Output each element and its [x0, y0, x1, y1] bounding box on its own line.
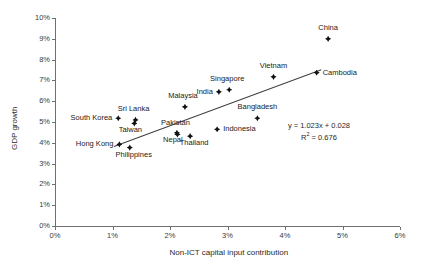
y-tick-mark: [52, 39, 55, 40]
x-tick-label: 5%: [329, 232, 357, 240]
data-point-label: China: [288, 24, 368, 33]
y-tick-label: 9%: [22, 35, 50, 43]
data-point-label: Pakistan: [135, 119, 215, 128]
data-point-label: India: [0, 88, 213, 97]
data-point-label: South Korea: [0, 114, 112, 123]
data-point-label: Cambodia: [323, 69, 357, 78]
data-point-label: Philippines: [94, 151, 174, 160]
x-tick-mark: [170, 227, 171, 230]
y-tick-mark: [52, 80, 55, 81]
x-tick-mark: [55, 227, 56, 230]
y-tick-label: 0%: [22, 222, 50, 230]
x-tick-label: 1%: [99, 232, 127, 240]
x-tick-mark: [113, 227, 114, 230]
data-point-label: Vietnam: [234, 62, 314, 71]
data-point-label: Singapore: [187, 75, 267, 84]
y-tick-label: 1%: [22, 201, 50, 209]
regression-equation-line: y = 1.023x + 0.028: [288, 121, 350, 131]
y-tick-label: 8%: [22, 56, 50, 64]
y-tick-mark: [52, 164, 55, 165]
r-squared-value: = 0.676: [310, 133, 337, 142]
data-point-label: Hong Kong: [0, 140, 113, 149]
y-tick-label: 7%: [22, 76, 50, 84]
y-tick-label: 10%: [22, 14, 50, 22]
y-tick-mark: [52, 205, 55, 206]
y-tick-label: 6%: [22, 97, 50, 105]
x-tick-mark: [400, 227, 401, 230]
x-tick-label: 4%: [271, 232, 299, 240]
regression-equation-annotation: y = 1.023x + 0.028 R2 = 0.676: [288, 121, 350, 143]
data-point-label: Thailand: [154, 139, 234, 148]
x-axis-title: Non-ICT capital input contribution: [170, 248, 289, 257]
x-tick-label: 6%: [386, 232, 414, 240]
scatter-chart: 0%1%2%3%4%5%6%7%8%9%10% 0%1%2%3%4%5%6% G…: [0, 0, 421, 270]
x-tick-label: 3%: [214, 232, 242, 240]
x-tick-mark: [343, 227, 344, 230]
data-point-label: Sri Lanka: [94, 105, 174, 114]
x-tick-label: 0%: [41, 232, 69, 240]
y-tick-mark: [52, 60, 55, 61]
x-tick-label: 2%: [156, 232, 184, 240]
y-tick-mark: [52, 18, 55, 19]
y-tick-label: 3%: [22, 160, 50, 168]
y-tick-mark: [52, 101, 55, 102]
y-tick-mark: [52, 184, 55, 185]
y-tick-label: 2%: [22, 180, 50, 188]
data-point-label: Indonesia: [223, 125, 256, 134]
x-tick-mark: [228, 227, 229, 230]
x-tick-mark: [285, 227, 286, 230]
data-point-label: Bangladesh: [217, 103, 297, 112]
r-squared-line: R2 = 0.676: [288, 130, 350, 142]
